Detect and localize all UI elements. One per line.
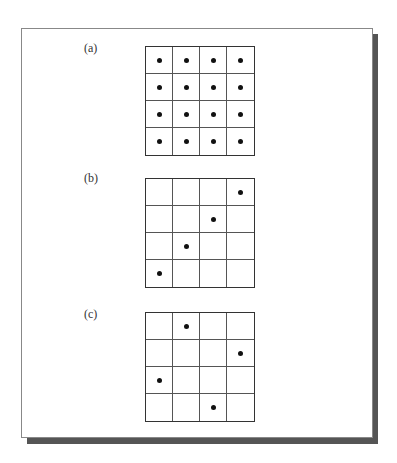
dot-icon — [184, 244, 189, 249]
dot-icon — [184, 139, 189, 144]
label-a: (a) — [84, 41, 97, 56]
grid-c — [145, 312, 255, 422]
dot-icon — [238, 139, 243, 144]
grid-cell — [200, 367, 227, 394]
grid-cell — [146, 394, 173, 421]
grid-b — [145, 178, 255, 288]
dot-icon — [238, 112, 243, 117]
label-b: (b) — [84, 171, 98, 186]
dot-icon — [211, 58, 216, 63]
dot-icon — [211, 217, 216, 222]
grid-cell — [146, 233, 173, 260]
grid-cell — [200, 101, 227, 128]
grid-a — [145, 46, 255, 156]
grid-cell — [146, 101, 173, 128]
grid-cell — [200, 260, 227, 287]
grid-cell — [146, 340, 173, 367]
dot-icon — [211, 139, 216, 144]
grid-cell — [173, 340, 200, 367]
grid-cell — [200, 206, 227, 233]
grid-cell — [173, 128, 200, 155]
figure-panel: (a) (b) (c) — [21, 28, 373, 438]
dot-icon — [238, 351, 243, 356]
label-c: (c) — [84, 307, 97, 322]
grid-cell — [227, 74, 254, 101]
dot-icon — [157, 378, 162, 383]
grid-cell — [200, 340, 227, 367]
grid-cell — [227, 313, 254, 340]
grid-cell — [173, 367, 200, 394]
grid-cell — [146, 179, 173, 206]
dot-icon — [157, 58, 162, 63]
dot-icon — [157, 85, 162, 90]
grid-cell — [146, 74, 173, 101]
dot-icon — [157, 139, 162, 144]
grid-cell — [200, 313, 227, 340]
grid-cell — [227, 206, 254, 233]
grid-cell — [227, 260, 254, 287]
dot-icon — [184, 324, 189, 329]
grid-cell — [146, 367, 173, 394]
grid-cell — [227, 128, 254, 155]
grid-cell — [146, 128, 173, 155]
grid-cell — [227, 340, 254, 367]
grid-cell — [227, 367, 254, 394]
grid-cell — [173, 260, 200, 287]
dot-icon — [157, 271, 162, 276]
grid-cell — [146, 313, 173, 340]
grid-cell — [173, 313, 200, 340]
grid-cell — [227, 179, 254, 206]
grid-cell — [200, 179, 227, 206]
dot-icon — [211, 85, 216, 90]
grid-cell — [200, 233, 227, 260]
grid-cell — [227, 233, 254, 260]
grid-cell — [227, 101, 254, 128]
dot-icon — [184, 85, 189, 90]
grid-cell — [227, 394, 254, 421]
grid-cell — [173, 101, 200, 128]
grid-cell — [173, 74, 200, 101]
grid-cell — [227, 47, 254, 74]
dot-icon — [157, 112, 162, 117]
grid-cell — [146, 47, 173, 74]
dot-icon — [211, 112, 216, 117]
grid-cell — [200, 128, 227, 155]
dot-icon — [238, 190, 243, 195]
dot-icon — [238, 58, 243, 63]
grid-cell — [200, 394, 227, 421]
grid-cell — [173, 179, 200, 206]
grid-cell — [146, 206, 173, 233]
grid-cell — [146, 260, 173, 287]
dot-icon — [238, 85, 243, 90]
grid-cell — [173, 47, 200, 74]
grid-cell — [173, 394, 200, 421]
dot-icon — [184, 58, 189, 63]
grid-cell — [173, 206, 200, 233]
dot-icon — [211, 405, 216, 410]
grid-cell — [200, 74, 227, 101]
grid-cell — [200, 47, 227, 74]
grid-cell — [173, 233, 200, 260]
dot-icon — [184, 112, 189, 117]
